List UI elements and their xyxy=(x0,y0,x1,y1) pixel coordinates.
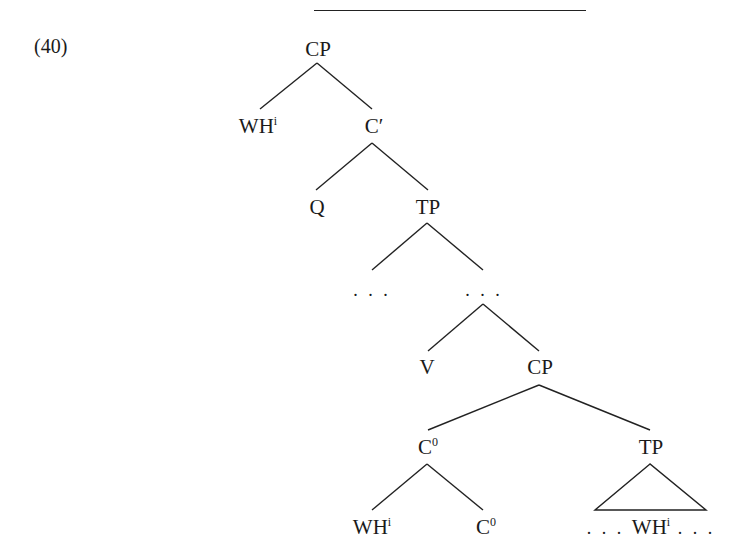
node-v: V xyxy=(419,357,434,378)
node-tp-content: . . . WHi . . . xyxy=(587,517,715,538)
tree-edges xyxy=(0,0,739,557)
node-tp: TP xyxy=(416,197,441,218)
node-tp-embedded: TP xyxy=(639,437,664,458)
node-wh-lower: WHi xyxy=(353,517,391,538)
node-wh-spec: WHi xyxy=(239,116,277,137)
node-c0-upper: C0 xyxy=(418,437,438,458)
node-c0-lower: C0 xyxy=(476,517,496,538)
node-cp-embedded: CP xyxy=(527,357,553,378)
node-ellipsis-right: . . . xyxy=(465,281,503,299)
node-q: Q xyxy=(309,197,324,218)
node-cp-root: CP xyxy=(305,39,331,60)
node-c-bar: C′ xyxy=(365,116,384,137)
node-ellipsis-left: . . . xyxy=(353,281,391,299)
